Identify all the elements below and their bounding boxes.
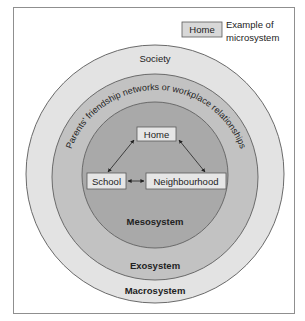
ecological-systems-diagram: Society Macrosystem Exosystem Mesosystem… [0,0,305,321]
legend-text-line1: Example of [226,19,274,30]
exosystem-label: Exosystem [130,260,180,271]
svg-text:School: School [92,176,121,187]
mesosystem-label: Mesosystem [126,216,183,227]
svg-text:Neighbourhood: Neighbourhood [154,176,219,187]
legend-home-label: Home [189,24,214,35]
society-label: Society [139,53,170,64]
neighbourhood-box: Neighbourhood [146,173,226,189]
legend-text-line2: microsystem [226,32,279,43]
legend: Home Example of microsystem [182,19,279,43]
school-box: School [87,173,126,189]
macrosystem-label: Macrosystem [125,285,186,296]
svg-text:Home: Home [144,129,169,140]
home-box: Home [137,127,176,141]
